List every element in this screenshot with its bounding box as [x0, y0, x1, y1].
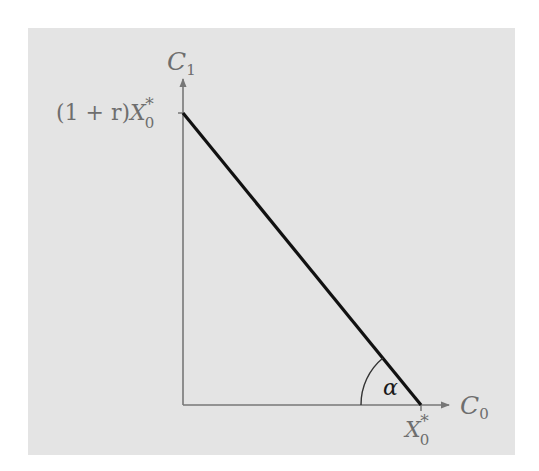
budget-line-diagram: C1 (1 + r)X0* C0 X0* α — [0, 0, 539, 471]
budget-line — [183, 113, 421, 405]
y-intercept-label: (1 + r)X0* — [56, 94, 154, 132]
x-intercept-label: X0* — [403, 411, 429, 449]
x-axis-label: C0 — [460, 391, 489, 423]
angle-alpha-label: α — [383, 375, 398, 400]
y-axis-label: C1 — [167, 47, 196, 79]
angle-arc — [361, 358, 383, 405]
